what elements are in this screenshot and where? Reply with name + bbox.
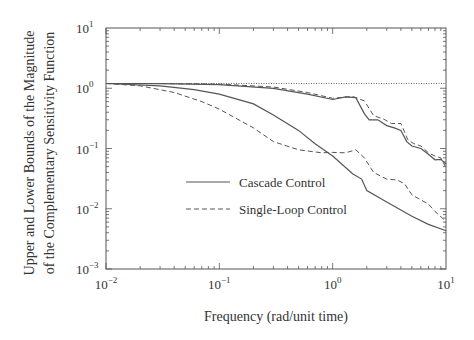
series-line-2 [106,84,446,168]
legend: Cascade Control Single-Loop Control [186,175,347,217]
x-axis-ticks: 10−210−1100101 [95,28,455,292]
y-tick-label: 100 [76,79,94,96]
x-tick-label: 10−1 [208,275,231,292]
y-tick-label: 10−1 [76,140,99,157]
y-axis-ticks: 10110010−110−210−3 [76,19,446,277]
y-tick-label: 10−2 [76,200,99,217]
plot-frame [106,28,446,269]
x-tick-label: 101 [437,275,455,292]
y-tick-label: 101 [76,19,94,36]
y-tick-label: 10−3 [76,260,99,277]
y-axis-label-line1: Upper and Lower Bounds of the Magnitude [22,31,37,276]
x-tick-label: 100 [324,275,342,292]
series-line-3 [106,84,446,222]
chart: Upper and Lower Bounds of the Magnitude … [0,0,474,340]
y-axis-label: Upper and Lower Bounds of the Magnitude … [22,31,57,276]
x-axis-label: Frequency (rad/unit time) [204,309,348,325]
legend-label-single-loop: Single-Loop Control [239,202,347,217]
legend-label-cascade: Cascade Control [239,175,326,190]
y-axis-label-line2: of the Complementary Sensitivity Functio… [42,32,57,275]
x-tick-label: 10−2 [95,275,118,292]
